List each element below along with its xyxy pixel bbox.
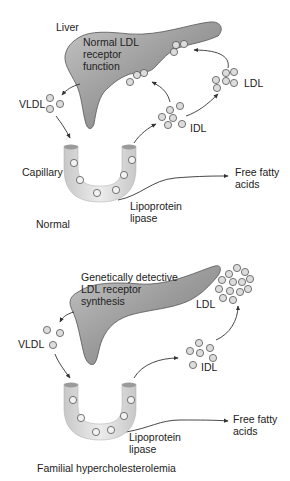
- free-fatty-acids-label: Free fatty acids: [233, 413, 277, 437]
- idl-label: IDL: [201, 361, 217, 373]
- lipoprotein-lipase-label: Lipoprotein lipase: [130, 200, 182, 224]
- lipoprotein-metabolism-diagram: Liver Normal LDL receptor function VLDL …: [0, 0, 290, 481]
- panel-caption-normal: Normal: [36, 218, 70, 230]
- ldl-particles-2: [215, 264, 253, 303]
- liver-condition-text: Genetically detective LDL receptor synth…: [81, 271, 178, 307]
- vldl-particles-1: [46, 94, 63, 112]
- liver-label: Liver: [56, 21, 79, 33]
- ldl-particles-1: [212, 68, 237, 91]
- lipoprotein-lipase-label: Lipoprotein lipase: [129, 431, 181, 455]
- liver-condition-text: Normal LDL receptor function: [83, 36, 139, 72]
- idl-particles-1: [158, 102, 185, 128]
- idl-label: IDL: [190, 122, 206, 134]
- diagram-graphics: [0, 0, 290, 481]
- panel-normal: [46, 22, 237, 202]
- capillary-label: Capillary: [22, 166, 63, 178]
- free-fatty-acids-label: Free fatty acids: [235, 166, 279, 190]
- vldl-particles-2: [43, 326, 63, 348]
- panel-caption-fh: Familial hypercholesterolemia: [37, 462, 176, 474]
- vldl-label: VLDL: [19, 98, 45, 110]
- vldl-label: VLDL: [18, 338, 44, 350]
- ldl-label: LDL: [244, 77, 263, 89]
- capillary-2: [64, 384, 136, 440]
- ldl-label: LDL: [196, 298, 215, 310]
